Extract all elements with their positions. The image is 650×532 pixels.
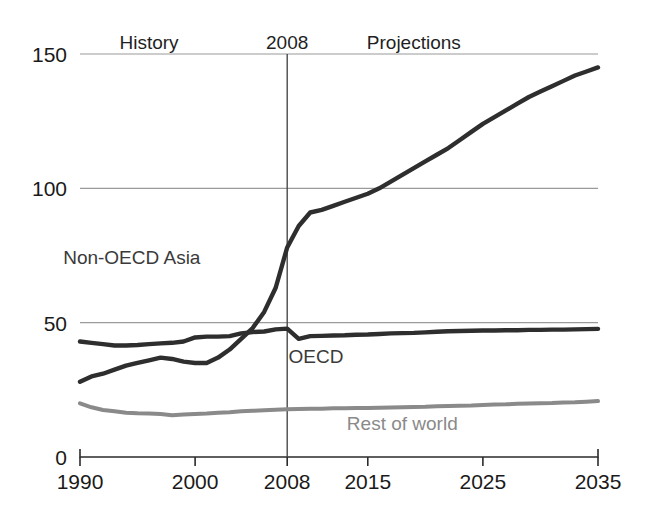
axes-group xyxy=(80,449,598,466)
y-tick-labels: 050100150 xyxy=(32,43,67,469)
header-annotations: History2008Projections xyxy=(120,32,461,53)
y-tick-label-150: 150 xyxy=(32,43,67,66)
x-tick-label-1990: 1990 xyxy=(57,470,104,493)
x-tick-label-2000: 2000 xyxy=(172,470,219,493)
x-tick-label-2008: 2008 xyxy=(264,470,311,493)
chart-container: 050100150 199020002008201520252035 Histo… xyxy=(0,0,650,532)
annotation-projections: Projections xyxy=(367,32,461,53)
y-tick-label-100: 100 xyxy=(32,177,67,200)
y-tick-label-50: 50 xyxy=(44,312,67,335)
x-tick-label-2035: 2035 xyxy=(575,470,622,493)
line-chart: 050100150 199020002008201520252035 Histo… xyxy=(0,0,650,532)
x-axis-line xyxy=(80,449,598,457)
annotation-history: History xyxy=(120,32,180,53)
x-axis-ticks xyxy=(80,457,598,466)
series-label-rest-of-world: Rest of world xyxy=(347,413,458,434)
annotation-2008: 2008 xyxy=(266,32,308,53)
x-tick-labels: 199020002008201520252035 xyxy=(57,470,622,493)
x-tick-label-2015: 2015 xyxy=(344,470,391,493)
y-tick-label-0: 0 xyxy=(55,446,67,469)
x-tick-label-2025: 2025 xyxy=(460,470,507,493)
series-label-oecd: OECD xyxy=(289,346,344,367)
gridlines-group xyxy=(80,54,598,323)
series-line-rest-of-world xyxy=(80,401,598,415)
series-line-oecd xyxy=(80,329,598,346)
series-label-non-oecd-asia: Non-OECD Asia xyxy=(63,247,201,268)
